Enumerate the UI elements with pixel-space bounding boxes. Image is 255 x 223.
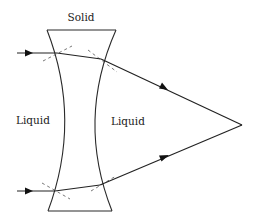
surface-normals	[42, 46, 117, 199]
lower-refracted-ray	[100, 125, 242, 185]
lower-incident-arrow-icon	[25, 188, 33, 195]
liquid-left-label: Liquid	[16, 114, 50, 126]
concave-lens	[47, 30, 116, 211]
upper-incident-arrow-icon	[25, 50, 33, 57]
solid-label: Solid	[68, 11, 95, 23]
lower-refracted-arrow-icon	[159, 155, 169, 162]
upper-ray-inside-lens	[57, 53, 101, 59]
lower-ray	[17, 125, 242, 195]
refraction-diagram: Solid Liquid Liquid	[0, 0, 255, 223]
upper-ray	[17, 50, 242, 126]
upper-refracted-arrow-icon	[159, 83, 168, 91]
liquid-right-label: Liquid	[111, 115, 145, 127]
